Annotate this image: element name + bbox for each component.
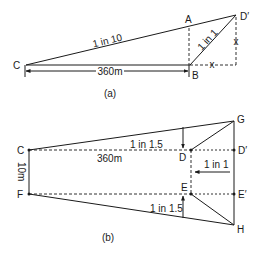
dot-e-prime <box>233 193 236 196</box>
figure-a: 360m C A B D′ 1 in 10 1 in 1 x x (a) <box>13 11 249 99</box>
edge-fh <box>29 194 234 225</box>
point-label-g: G <box>237 114 245 125</box>
slope-label-end: 1 in 1 <box>204 159 229 170</box>
figure-b: C F G H D E D′ E′ 1 in 1.5 1 in 1.5 1 in… <box>16 114 247 243</box>
edge-eh <box>191 194 234 225</box>
dot-d-prime <box>233 149 236 152</box>
point-label-b: B <box>192 70 199 81</box>
point-label-d: D <box>179 152 186 163</box>
point-label-f: F <box>17 189 23 200</box>
point-label-d-prime: D′ <box>240 11 249 22</box>
point-label-d-prime: D′ <box>238 145 247 156</box>
dot-c <box>28 149 31 152</box>
slope-label-1-in-1: 1 in 1 <box>195 27 220 53</box>
offset-label-horizontal-x: x <box>210 59 215 70</box>
point-label-e: E <box>181 182 188 193</box>
caption-a: (a) <box>104 88 116 99</box>
point-label-h: H <box>237 224 244 235</box>
point-label-e-prime: E′ <box>238 189 247 200</box>
slope-label-bottom: 1 in 1.5 <box>150 203 183 214</box>
edge-dg <box>191 121 234 150</box>
slope-label-top: 1 in 1.5 <box>130 139 163 150</box>
slope-label-1-in-10: 1 in 10 <box>91 32 123 50</box>
caption-b: (b) <box>102 232 114 243</box>
length-label: 360m <box>97 153 122 164</box>
point-label-c: C <box>13 60 20 71</box>
dot-e <box>190 193 193 196</box>
offset-label-vertical-x: x <box>234 36 239 47</box>
dot-f <box>28 193 31 196</box>
diagram: 360m C A B D′ 1 in 10 1 in 1 x x (a) <box>0 0 262 255</box>
dot-d <box>190 149 193 152</box>
dimension-label-360m: 360m <box>97 66 122 77</box>
point-label-c: C <box>17 145 24 156</box>
point-label-a: A <box>185 14 192 25</box>
width-label: 10m <box>16 162 27 181</box>
